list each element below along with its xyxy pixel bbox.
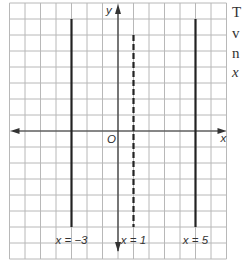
side-text-line-3: n [232, 45, 240, 61]
line-label-x-1: x = 1 [120, 234, 146, 246]
line-label-x-5: x = 5 [182, 234, 209, 246]
origin-label: O [107, 133, 116, 145]
line-label-x-neg3: x = −3 [55, 234, 89, 246]
side-text-line-4: x [232, 64, 239, 80]
side-text-line-1: T [232, 4, 241, 20]
axes [11, 4, 227, 252]
y-axis-label: y [105, 4, 113, 16]
y-axis-up-arrow-icon [115, 4, 121, 14]
coordinate-plane: y x O x = −3 x = 1 x = 5 [0, 0, 246, 269]
side-text-line-2: v [232, 25, 240, 41]
x-axis-left-arrow-icon [11, 128, 20, 134]
